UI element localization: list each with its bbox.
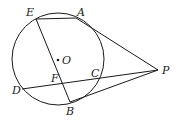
label-b: B: [66, 106, 74, 117]
label-f: F: [51, 73, 59, 84]
tangent-pa: [76, 18, 158, 70]
label-a: A: [77, 7, 85, 18]
label-o: O: [62, 55, 71, 66]
tangent-pb: [70, 70, 158, 102]
chord-ea: [36, 18, 76, 19]
geometry-figure: E A O F C D B P: [0, 0, 182, 121]
center-dot-o: [57, 59, 60, 62]
label-e: E: [26, 7, 34, 18]
label-c: C: [91, 68, 99, 79]
label-d: D: [12, 85, 21, 96]
secant-pd: [22, 70, 158, 89]
label-p: P: [162, 65, 169, 76]
